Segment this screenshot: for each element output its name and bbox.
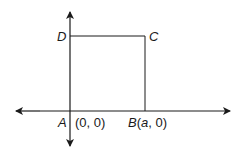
label-C: C [149, 29, 159, 44]
coordinate-diagram: D C A (0, 0) B(a, 0) [0, 0, 237, 153]
label-A: A [57, 115, 67, 130]
diagram-canvas: D C A (0, 0) B(a, 0) [0, 0, 237, 153]
label-B-var: a [141, 115, 148, 130]
label-A-coords: (0, 0) [75, 115, 105, 130]
label-B-rest: , 0) [148, 115, 167, 130]
label-D: D [57, 29, 66, 44]
label-B: B [128, 115, 137, 130]
label-B-coords: B(a, 0) [128, 115, 167, 130]
